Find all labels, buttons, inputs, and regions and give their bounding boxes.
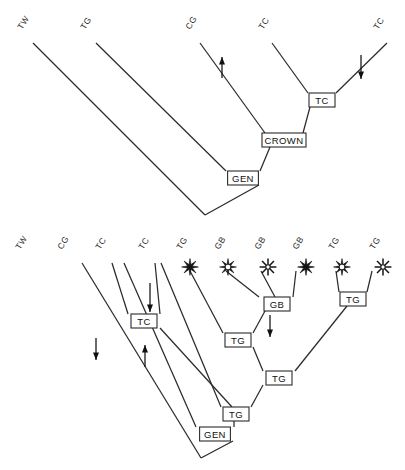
node-box-tg-lower-5[interactable]: TG — [223, 407, 249, 421]
tip-label-tw-lower-0: TW — [13, 234, 29, 251]
star-core — [266, 265, 270, 269]
arrowhead-up-icon — [219, 57, 225, 65]
tip-label-text: TC — [256, 15, 271, 31]
tip-label-text: GB — [290, 234, 306, 251]
tip-marker-star-open-9 — [375, 259, 392, 276]
tip-label-text: TG — [367, 235, 382, 251]
tip-label-text: TC — [371, 15, 386, 31]
node-box-label: GB — [270, 299, 285, 310]
tip-label-cg-upper-2: CG — [183, 14, 199, 31]
arrow-down-lower-3 — [267, 315, 273, 337]
tip-marker-star-medium-8 — [334, 259, 351, 276]
node-box-tc-lower-0[interactable]: TC — [131, 314, 157, 328]
branch-tc-left-upper — [272, 43, 308, 93]
tip-marker-star-filled-7 — [298, 259, 315, 276]
node-box-label: TC — [315, 95, 328, 106]
branch-tw-lower — [82, 263, 201, 458]
branch-gb-child1 — [226, 271, 259, 297]
node-box-tg-lower-3[interactable]: TG — [340, 292, 366, 306]
node-box-crown-upper-1[interactable]: CROWN — [262, 133, 306, 147]
arrowhead-down-icon — [93, 353, 99, 361]
lower-tree-group: TCGBTGTGTGTGGENTWCGTCTCTGGBGBGBTGTG — [13, 234, 391, 458]
tip-label-tc-upper-3: TC — [256, 15, 271, 31]
star-ray — [377, 269, 381, 273]
tip-marker-star-filled-4 — [182, 259, 199, 276]
tip-label-text: TW — [15, 14, 31, 31]
tip-label-text: TG — [174, 235, 189, 251]
arrow-down-lower-0 — [147, 283, 153, 312]
branch-tg5-to-tg4 — [251, 385, 263, 407]
star-ray — [270, 261, 274, 265]
branch-tg3-child1 — [336, 271, 339, 292]
star-ray — [377, 261, 381, 265]
star-core — [381, 265, 385, 269]
star-ray — [270, 269, 274, 273]
node-box-tc-upper-0[interactable]: TC — [309, 93, 335, 107]
node-box-label: TG — [229, 409, 243, 420]
branch-tg3-child2 — [367, 271, 372, 292]
branch-tg-to-tcnode — [160, 328, 232, 407]
arrowhead-up-icon — [142, 345, 148, 353]
tip-label-gb-lower-5: GB — [212, 234, 228, 251]
node-box-label: GEN — [232, 173, 254, 184]
arrowhead-down-icon — [267, 330, 273, 338]
tip-label-text: CG — [55, 234, 71, 251]
node-box-gb-lower-1[interactable]: GB — [264, 297, 290, 311]
node-box-label: TG — [231, 335, 245, 346]
node-box-gen-upper-2[interactable]: GEN — [228, 171, 259, 185]
tip-label-text: TC — [136, 235, 151, 251]
branch-tw-upper — [33, 43, 205, 215]
branch-tg-star1 — [190, 271, 223, 333]
branch-root-to-gen — [205, 185, 259, 215]
tip-label-text: TG — [78, 15, 93, 31]
tip-label-text: TG — [326, 235, 341, 251]
star-ray — [385, 261, 389, 265]
tip-label-gb-lower-7: GB — [290, 234, 306, 251]
tip-label-tg-upper-1: TG — [78, 15, 93, 31]
branch-root-to-gen-lower — [201, 441, 233, 458]
star-body — [298, 259, 315, 276]
branch-gen-to-crown — [260, 147, 270, 171]
arrowhead-down-icon — [358, 72, 364, 80]
node-box-label: GEN — [204, 429, 226, 440]
node-box-label: CROWN — [265, 135, 304, 146]
tip-label-text: TW — [13, 234, 29, 251]
branch-tg4-to-tg2 — [253, 347, 263, 371]
cladogram-svg: TCCROWNGENTWTGCGTCTCTCGBTGTGTGTGGENTWCGT… — [0, 0, 405, 470]
tip-label-gb-lower-6: GB — [252, 234, 268, 251]
branch-gb-child3 — [293, 271, 296, 297]
branch-tg4-to-tg3 — [295, 306, 347, 371]
star-ray — [262, 261, 266, 265]
branch-cg-upper — [200, 43, 265, 133]
star-body — [182, 259, 199, 276]
tip-label-text: CG — [183, 14, 199, 31]
tip-label-tg-lower-4: TG — [174, 235, 189, 251]
tip-label-tc-upper-4: TC — [371, 15, 386, 31]
branch-tc-right-lower — [155, 263, 160, 314]
arrow-down-lower-1 — [93, 338, 99, 360]
tip-label-cg-lower-1: CG — [55, 234, 71, 251]
tip-label-tg-lower-8: TG — [326, 235, 341, 251]
tip-label-text: GB — [252, 234, 268, 251]
arrow-up-upper-0 — [219, 57, 225, 78]
node-box-label: TG — [272, 373, 286, 384]
tip-label-text: TC — [93, 235, 108, 251]
tip-label-tw-upper-0: TW — [15, 14, 31, 31]
star-core — [225, 264, 231, 270]
star-core — [339, 264, 345, 270]
node-box-tg-lower-2[interactable]: TG — [225, 333, 251, 347]
star-ray — [262, 269, 266, 273]
star-ray — [385, 269, 389, 273]
branch-tg2-to-gb — [253, 311, 265, 333]
tip-label-tc-lower-2: TC — [93, 235, 108, 251]
tip-marker-star-medium-5 — [220, 259, 237, 276]
node-box-label: TC — [137, 316, 150, 327]
figure-canvas: TCCROWNGENTWTGCGTCTCTCGBTGTGTGTGGENTWCGT… — [0, 0, 405, 470]
node-box-gen-lower-6[interactable]: GEN — [200, 427, 231, 441]
tip-label-tg-lower-9: TG — [367, 235, 382, 251]
node-box-tg-lower-4[interactable]: TG — [266, 371, 292, 385]
tip-marker-star-open-6 — [260, 259, 277, 276]
upper-tree-group: TCCROWNGENTWTGCGTCTC — [15, 14, 387, 215]
tip-label-text: GB — [212, 234, 228, 251]
branch-crown-to-tc — [303, 107, 310, 133]
